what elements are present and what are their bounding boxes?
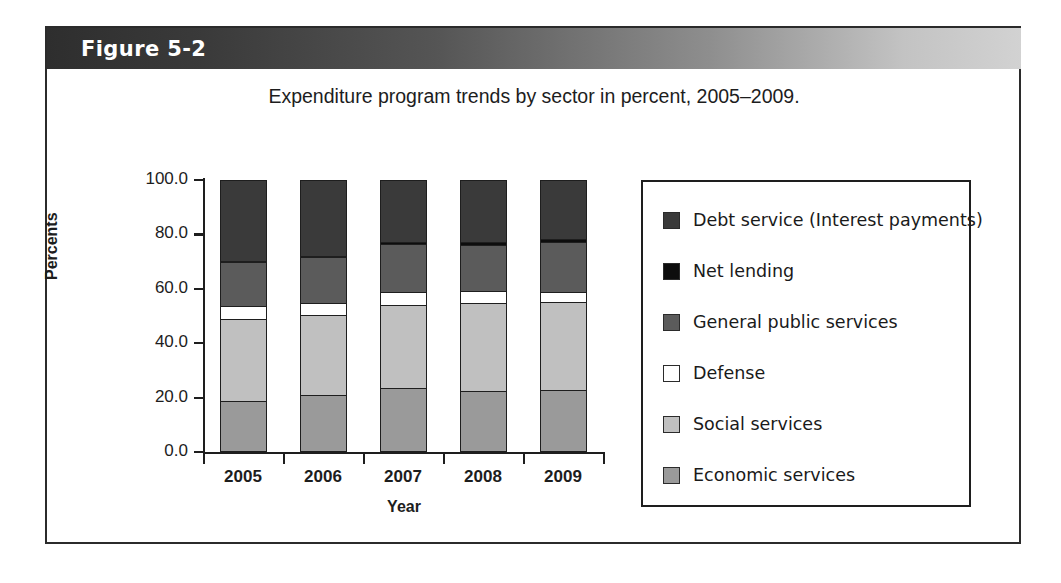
legend-label: Defense [693, 363, 765, 383]
bar-segment[interactable] [541, 181, 586, 239]
x-axis-tick-label: 2009 [528, 467, 598, 487]
legend-swatch-icon [663, 212, 680, 229]
bar-segment[interactable] [461, 245, 506, 291]
stacked-bar[interactable] [540, 180, 587, 452]
bar-segment[interactable] [541, 242, 586, 292]
legend-item[interactable]: Debt service (Interest payments) [663, 210, 983, 230]
bar-segment[interactable] [301, 257, 346, 303]
x-axis-tick [443, 454, 445, 464]
stacked-bar[interactable] [220, 180, 267, 452]
legend-label: Net lending [693, 261, 794, 281]
bar-segment[interactable] [301, 395, 346, 451]
bar-column [380, 180, 427, 452]
y-axis-tick-label: 20.0 [118, 387, 188, 407]
legend-swatch-icon [663, 467, 680, 484]
bar-segment[interactable] [221, 262, 266, 306]
bar-segment[interactable] [221, 401, 266, 451]
legend-swatch-icon [663, 263, 680, 280]
legend-item[interactable]: Defense [663, 363, 765, 383]
legend-item[interactable]: Economic services [663, 465, 855, 485]
stacked-bar[interactable] [300, 180, 347, 452]
legend-swatch-icon [663, 314, 680, 331]
bar-segment[interactable] [381, 244, 426, 292]
bar-segment[interactable] [461, 391, 506, 451]
legend-label: Debt service (Interest payments) [693, 210, 983, 230]
x-axis-line [203, 452, 605, 454]
bar-column [540, 180, 587, 452]
bar-segment[interactable] [381, 305, 426, 387]
bar-column [220, 180, 267, 452]
plot-area [203, 180, 603, 452]
legend-item[interactable]: General public services [663, 312, 898, 332]
legend-label: Economic services [693, 465, 855, 485]
y-axis-tick-label: 60.0 [118, 278, 188, 298]
figure-header-bar: Figure 5-2 [47, 28, 1021, 69]
y-axis-tick-label: 80.0 [118, 223, 188, 243]
bar-segment[interactable] [301, 181, 346, 256]
figure-frame: Figure 5-2 Expenditure program trends by… [45, 26, 1021, 544]
x-axis-tick-label: 2007 [368, 467, 438, 487]
x-axis-tick [203, 454, 205, 464]
bar-segment[interactable] [461, 303, 506, 391]
legend-swatch-icon [663, 365, 680, 382]
x-axis-tick [283, 454, 285, 464]
bar-segment[interactable] [461, 291, 506, 303]
bar-segment[interactable] [301, 303, 346, 315]
x-axis-tick [603, 454, 605, 464]
legend-item[interactable]: Social services [663, 414, 822, 434]
chart-title: Expenditure program trends by sector in … [47, 85, 1021, 108]
y-axis-tick-label: 40.0 [118, 332, 188, 352]
x-axis-tick [523, 454, 525, 464]
bar-segment[interactable] [381, 388, 426, 451]
bar-segment[interactable] [221, 306, 266, 319]
figure-number-label: Figure 5-2 [81, 37, 206, 61]
bar-segment[interactable] [541, 292, 586, 302]
bar-segment[interactable] [461, 181, 506, 242]
legend-swatch-icon [663, 416, 680, 433]
legend-label: Social services [693, 414, 822, 434]
bar-segment[interactable] [221, 319, 266, 401]
chart-legend: Debt service (Interest payments)Net lend… [641, 180, 971, 507]
bar-segment[interactable] [381, 292, 426, 305]
legend-item[interactable]: Net lending [663, 261, 794, 281]
x-axis-tick-label: 2005 [208, 467, 278, 487]
bar-segment[interactable] [541, 302, 586, 390]
bar-column [460, 180, 507, 452]
bar-segment[interactable] [221, 181, 266, 261]
y-axis-tick-label: 0.0 [118, 441, 188, 461]
x-axis-tick-label: 2008 [448, 467, 518, 487]
bar-segment[interactable] [541, 390, 586, 451]
x-axis-tick [363, 454, 365, 464]
x-axis-title: Year [203, 498, 605, 516]
bar-segment[interactable] [381, 181, 426, 242]
y-axis-tick-label: 100.0 [118, 169, 188, 189]
legend-label: General public services [693, 312, 898, 332]
bar-column [300, 180, 347, 452]
y-axis-title: Percents [43, 212, 61, 280]
x-axis-tick-label: 2006 [288, 467, 358, 487]
stacked-bar[interactable] [460, 180, 507, 452]
stacked-bar[interactable] [380, 180, 427, 452]
bar-segment[interactable] [301, 315, 346, 396]
